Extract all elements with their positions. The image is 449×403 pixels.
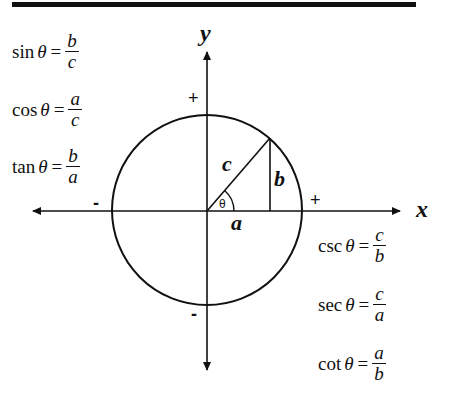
fraction: b a: [66, 147, 80, 186]
formula-csc: csc θ = c b: [318, 226, 386, 265]
y-negative-sign: -: [191, 304, 197, 325]
equals-sign: =: [358, 353, 369, 375]
function-name: sin: [12, 41, 34, 63]
numerator: a: [68, 90, 82, 110]
theta-angle-label: θ: [219, 197, 226, 211]
numerator: b: [66, 147, 80, 167]
fraction: a c: [68, 90, 82, 129]
denominator: b: [374, 364, 384, 383]
numerator: c: [373, 285, 385, 305]
fraction: b c: [65, 32, 79, 71]
hypotenuse-label: c: [222, 151, 232, 177]
x-axis-label: x: [416, 196, 428, 223]
formula-cos: cos θ = a c: [12, 90, 82, 129]
theta-symbol: θ: [345, 294, 354, 316]
function-name: csc: [318, 235, 342, 257]
numerator: a: [372, 344, 386, 364]
y-positive-sign: +: [188, 88, 199, 109]
formula-tan: tan θ = b a: [12, 147, 80, 186]
theta-symbol: θ: [345, 235, 354, 257]
equals-sign: =: [51, 41, 62, 63]
fraction: a b: [372, 344, 386, 383]
fraction: c b: [373, 226, 385, 265]
formula-sin: sin θ = b c: [12, 32, 79, 71]
theta-symbol: θ: [40, 99, 49, 121]
denominator: b: [375, 246, 385, 265]
opposite-label: b: [274, 166, 285, 192]
equals-sign: =: [52, 156, 63, 178]
equals-sign: =: [359, 235, 370, 257]
hypotenuse-line: [207, 138, 270, 211]
adjacent-label: a: [231, 210, 242, 236]
x-negative-sign: -: [93, 193, 99, 214]
denominator: a: [375, 305, 385, 324]
denominator: a: [68, 167, 78, 186]
function-name: sec: [318, 294, 342, 316]
function-name: cos: [12, 99, 37, 121]
equals-sign: =: [359, 294, 370, 316]
denominator: c: [71, 110, 79, 129]
x-positive-sign: +: [310, 190, 321, 211]
numerator: b: [65, 32, 79, 52]
angle-arc: [225, 191, 234, 212]
theta-symbol: θ: [344, 353, 353, 375]
theta-symbol: θ: [37, 41, 46, 63]
theta-symbol: θ: [38, 156, 47, 178]
formula-sec: sec θ = c a: [318, 285, 386, 324]
function-name: cot: [318, 353, 341, 375]
numerator: c: [373, 226, 385, 246]
denominator: c: [68, 52, 76, 71]
fraction: c a: [373, 285, 385, 324]
equals-sign: =: [54, 99, 65, 121]
function-name: tan: [12, 156, 35, 178]
y-axis-label: y: [200, 20, 211, 47]
formula-cot: cot θ = a b: [318, 344, 386, 383]
